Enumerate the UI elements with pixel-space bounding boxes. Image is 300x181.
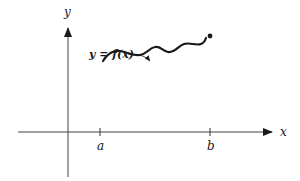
tick-label-a: a [97, 139, 104, 153]
x-axis-label: x [280, 125, 287, 139]
tick-label-b: b [207, 139, 215, 153]
isolated-point [208, 34, 213, 39]
curve-label: y = f(x) [88, 48, 134, 61]
function-graph-diagram: y x a b y = f(x) [0, 0, 300, 181]
y-axis-label: y [63, 5, 71, 19]
